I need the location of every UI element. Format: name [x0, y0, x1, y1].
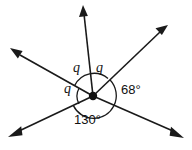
angle-label-q-left: q	[64, 82, 71, 96]
geometry-canvas	[0, 0, 192, 150]
ray-upper-left-arrowhead	[10, 48, 23, 59]
vertex-point	[89, 92, 97, 100]
ray-lower-left-arrowhead	[8, 126, 23, 137]
geometry-diagram: q q q 68° 130°	[0, 0, 192, 150]
ray-lower-right-arrowhead	[170, 127, 184, 138]
ray-lower-right-line	[93, 96, 173, 131]
ray-up-line	[84, 14, 93, 96]
angle-label-130-degrees: 130°	[74, 113, 101, 126]
angle-label-68-degrees: 68°	[121, 83, 141, 96]
angle-label-q-upper-left: q	[73, 61, 80, 75]
ray-up-arrowhead	[79, 5, 88, 17]
angle-label-q-upper-right: q	[96, 61, 103, 75]
ray-upper-left-line	[20, 55, 93, 96]
arc-angle-68	[110, 80, 116, 106]
arc-q-left	[77, 88, 79, 104]
